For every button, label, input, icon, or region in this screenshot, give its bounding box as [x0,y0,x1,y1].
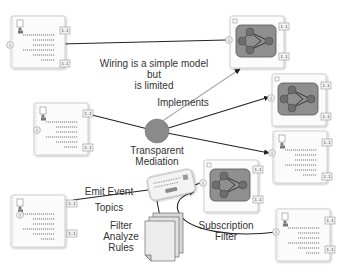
input-port[interactable] [17,212,24,219]
output-port[interactable] [321,82,331,89]
workflow-right[interactable] [268,74,331,126]
input-port[interactable] [226,37,233,44]
output-port[interactable] [322,139,332,146]
output-port[interactable] [321,113,331,120]
component-right[interactable] [269,131,332,183]
output-port[interactable] [83,110,93,117]
output-port[interactable] [83,144,93,151]
implements-label: Implements [148,97,218,108]
transparent-mediation-node[interactable] [145,119,169,143]
input-port[interactable] [273,229,280,236]
wiring-note-label: Wiring is a simple model but is limited [88,58,220,91]
emit-event-label: Emit Event [76,186,142,197]
workflow-top[interactable] [226,16,289,68]
output-port[interactable] [279,23,289,30]
output-port[interactable] [67,200,77,207]
event-bus-device[interactable] [146,168,196,201]
output-port[interactable] [60,60,70,67]
component-top-left[interactable] [7,16,70,68]
wire-event-to-workflow-bottom[interactable] [195,183,200,185]
input-port[interactable] [269,150,276,157]
input-port[interactable] [7,42,14,49]
output-port[interactable] [253,166,263,173]
subscription-filter-label: Subscription Filter [190,220,262,242]
rules-documents-icon[interactable] [145,213,183,261]
output-port[interactable] [253,196,263,203]
output-port[interactable] [279,53,289,60]
workflow-bottom[interactable] [200,160,263,212]
output-port[interactable] [325,246,335,253]
component-bottom-left[interactable] [11,195,77,247]
rules-label: Filter Analyze Rules [98,220,144,253]
output-port[interactable] [325,217,335,224]
topics-label: Topics [84,202,134,213]
mediation-label: Transparent Mediation [117,145,197,167]
component-bottom-right[interactable] [273,209,335,261]
output-port[interactable] [322,173,332,180]
architecture-diagram: 1..1 i [0,0,347,275]
component-mid-left[interactable] [34,103,93,155]
output-port[interactable] [60,27,70,34]
output-port[interactable] [67,230,77,237]
input-port[interactable] [268,95,275,102]
input-port[interactable] [34,127,41,134]
input-port[interactable] [200,180,207,187]
wire-top-left-to-workflow-top[interactable] [60,40,226,44]
